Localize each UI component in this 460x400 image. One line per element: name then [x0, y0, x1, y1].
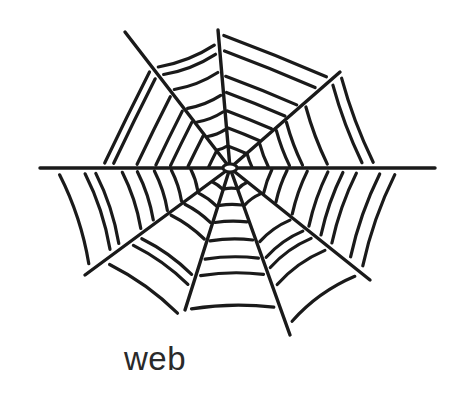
spider-web-illustration	[0, 0, 460, 340]
caption-label: web	[124, 340, 186, 378]
